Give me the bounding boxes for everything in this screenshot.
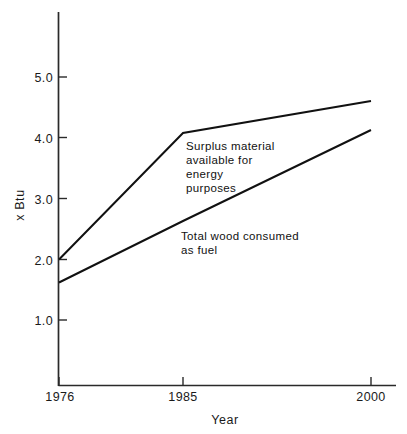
y-tick-label-3: 3.0: [34, 193, 53, 207]
y-tick-label-1: 1.0: [34, 314, 53, 328]
total-wood-annotation: Total wood consumed as fuel: [181, 230, 299, 256]
surplus-annotation-line-3: energy: [186, 168, 223, 180]
surplus-annotation-line-2: available for: [186, 154, 253, 166]
x-tick-label-1976: 1976: [45, 390, 74, 404]
surplus-annotation-line-4: purposes: [186, 182, 236, 194]
chart-canvas: 5.0 4.0 3.0 2.0 1.0 x Btu 1976 1985 2000…: [0, 0, 407, 434]
surplus-annotation-line-1: Surplus material: [186, 140, 275, 152]
y-axis-title: x Btu: [13, 189, 27, 221]
total-wood-annotation-line-2: as fuel: [181, 244, 217, 256]
surplus-annotation: Surplus material available for energy pu…: [186, 140, 275, 194]
y-tick-label-2: 2.0: [34, 254, 53, 268]
y-tick-label-5: 5.0: [34, 71, 53, 85]
chart-figure: 5.0 4.0 3.0 2.0 1.0 x Btu 1976 1985 2000…: [0, 0, 407, 434]
total-wood-annotation-line-1: Total wood consumed: [181, 230, 299, 242]
series-line-total-wood: [59, 130, 371, 283]
x-axis-title: Year: [211, 413, 239, 427]
y-tick-label-4: 4.0: [34, 132, 53, 146]
x-tick-label-1985: 1985: [168, 390, 197, 404]
x-tick-label-2000: 2000: [356, 390, 385, 404]
